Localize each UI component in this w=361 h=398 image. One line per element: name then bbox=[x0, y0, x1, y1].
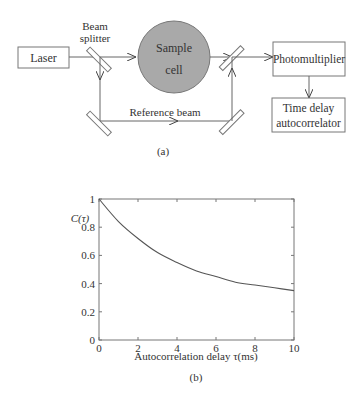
photomultiplier-label: Photomultiplier bbox=[273, 53, 345, 66]
autocorrelator-label-line1: Time delay bbox=[283, 102, 335, 115]
y-tick-label: 0.4 bbox=[81, 278, 95, 290]
y-tick-label: 0.2 bbox=[81, 306, 95, 318]
x-tick-label: 10 bbox=[289, 342, 301, 354]
reference-mirror-left bbox=[87, 111, 112, 136]
autocorrelation-chart: 024681000.20.40.60.81 C(τ) Autocorrelati… bbox=[71, 193, 300, 384]
sample-cell-label-line1: Sample bbox=[156, 41, 192, 55]
axis-ticks bbox=[99, 199, 294, 340]
sample-cell: Sample cell bbox=[138, 21, 210, 93]
caption-b: (b) bbox=[190, 371, 203, 384]
x-tick-label: 0 bbox=[96, 342, 102, 354]
photomultiplier-box: Photomultiplier bbox=[273, 42, 345, 76]
autocorrelator-label-line2: autocorrelator bbox=[276, 117, 341, 129]
autocorrelation-curve bbox=[99, 199, 294, 291]
sample-cell-label-line2: cell bbox=[165, 63, 183, 77]
x-axis-label: Autocorrelation delay τ(ms) bbox=[134, 350, 258, 363]
y-axis-label: C(τ) bbox=[71, 212, 90, 225]
laser-label: Laser bbox=[30, 51, 57, 65]
y-tick-label: 1 bbox=[90, 193, 96, 205]
beam-splitter-label-line2: splitter bbox=[80, 32, 111, 44]
figure-canvas: Laser Beam splitter Sample cell bbox=[0, 0, 361, 398]
reference-beam-label: Reference beam bbox=[129, 106, 201, 118]
y-tick-label: 0.6 bbox=[81, 249, 95, 261]
laser-box: Laser bbox=[18, 47, 69, 68]
plot-frame bbox=[99, 199, 294, 340]
schematic-diagram: Laser Beam splitter Sample cell bbox=[18, 20, 345, 158]
beam-splitter-mirror bbox=[87, 47, 112, 72]
y-tick-label: 0 bbox=[90, 334, 96, 346]
autocorrelator-box: Time delay autocorrelator bbox=[272, 98, 345, 132]
caption-a: (a) bbox=[157, 145, 170, 158]
beam-splitter-label-line1: Beam bbox=[82, 20, 108, 32]
